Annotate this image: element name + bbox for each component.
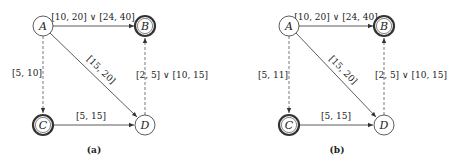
node-c-accepting: C	[279, 115, 299, 135]
node-label-b: B	[379, 20, 388, 33]
edge-label-c-d: [5, 15]	[321, 111, 351, 121]
diagram-canvas: [10, 20] ∨ [24, 40] [5, 10] [15, 20] [5,…	[0, 0, 463, 166]
edge-label-c-d: [5, 15]	[76, 111, 106, 121]
node-a: A	[279, 16, 299, 36]
panel-b: [10, 20] ∨ [24, 40] [5, 11] [15, 20] [5,…	[258, 12, 447, 155]
panel-a: [10, 20] ∨ [24, 40] [5, 10] [15, 20] [5,…	[12, 12, 208, 155]
node-label-d: D	[379, 119, 389, 132]
edge-label-d-b: [2, 5] ∨ [10, 15]	[375, 70, 447, 80]
node-b-accepting: B	[135, 16, 155, 36]
caption-b: (b)	[330, 145, 345, 155]
edge-label-a-d: [15, 20]	[327, 54, 359, 87]
edge-label-a-c: [5, 11]	[258, 70, 288, 80]
node-d: D	[374, 115, 394, 135]
node-label-a: A	[284, 20, 293, 33]
node-label-a: A	[38, 20, 47, 33]
caption-a: (a)	[87, 145, 101, 155]
edge-label-a-b: [10, 20] ∨ [24, 40]	[51, 12, 135, 22]
node-label-d: D	[140, 119, 150, 132]
node-b-accepting: B	[374, 16, 394, 36]
node-c-accepting: C	[33, 115, 53, 135]
edge-label-a-b: [10, 20] ∨ [24, 40]	[294, 12, 378, 22]
edge-label-a-c: [5, 10]	[12, 68, 42, 78]
node-label-b: B	[140, 20, 149, 33]
edge-a-to-d	[50, 33, 137, 117]
node-label-c: C	[39, 119, 48, 132]
edge-a-to-d	[296, 33, 376, 117]
edge-label-d-b: [2, 5] ∨ [10, 15]	[136, 70, 208, 80]
node-d: D	[135, 115, 155, 135]
node-label-c: C	[285, 119, 294, 132]
node-a: A	[33, 16, 53, 36]
edge-label-a-d: [15, 20]	[85, 54, 118, 86]
